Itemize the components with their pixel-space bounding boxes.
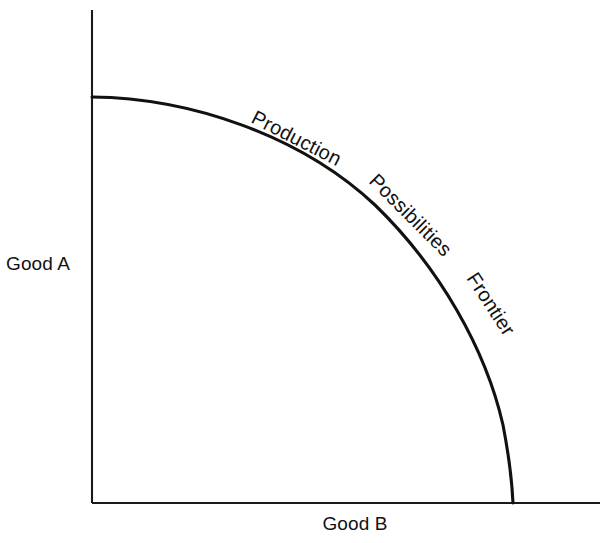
ppf-curve [92,97,513,503]
x-axis-label: Good B [322,513,387,534]
curve-label-possibilities: Possibilities [365,169,456,260]
y-axis-label: Good A [6,253,70,274]
ppf-figure: Good A Good B Production Possibilities F… [0,0,616,543]
ppf-chart-canvas: Good A Good B Production Possibilities F… [0,0,616,543]
curve-label-frontier: Frontier [463,268,520,339]
curve-label-production: Production [248,106,345,170]
